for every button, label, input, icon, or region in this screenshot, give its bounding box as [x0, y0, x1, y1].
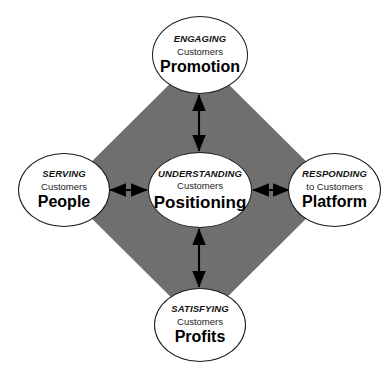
- node-people-eyebrow: SERVING: [42, 169, 85, 179]
- node-promotion-title: Promotion: [160, 59, 240, 76]
- node-positioning-title: Positioning: [154, 194, 247, 212]
- node-profits-eyebrow: SATISFYING: [171, 304, 228, 314]
- node-positioning-eyebrow: UNDERSTANDING: [158, 169, 242, 179]
- node-platform[interactable]: RESPONDING to Customers Platform: [288, 153, 381, 227]
- node-platform-title: Platform: [302, 194, 367, 211]
- diagram-canvas: ENGAGING Customers Promotion SERVING Cus…: [0, 0, 383, 377]
- node-platform-eyebrow: RESPONDING: [302, 169, 367, 179]
- node-platform-sub: to Customers: [306, 182, 363, 192]
- node-profits-title: Profits: [175, 329, 226, 346]
- node-people-title: People: [38, 194, 90, 211]
- node-positioning[interactable]: UNDERSTANDING Customers Positioning: [148, 152, 252, 228]
- node-people-sub: Customers: [41, 182, 87, 192]
- node-promotion-eyebrow: ENGAGING: [174, 34, 227, 44]
- node-promotion[interactable]: ENGAGING Customers Promotion: [152, 16, 248, 94]
- node-people[interactable]: SERVING Customers People: [18, 153, 110, 227]
- node-profits-sub: Customers: [177, 317, 223, 327]
- node-promotion-sub: Customers: [177, 47, 223, 57]
- node-positioning-sub: Customers: [177, 181, 223, 191]
- node-profits[interactable]: SATISFYING Customers Profits: [154, 288, 246, 362]
